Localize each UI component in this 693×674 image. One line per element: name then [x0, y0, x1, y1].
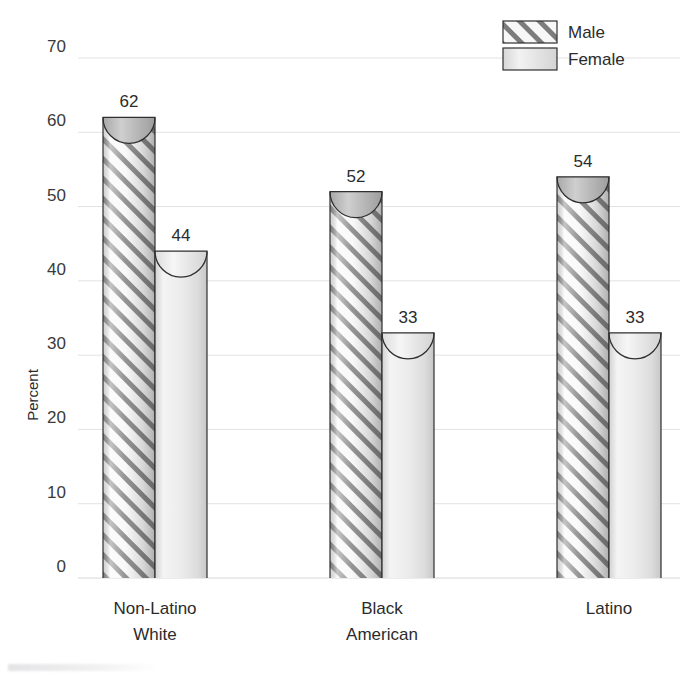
bar-value-label: 54	[574, 152, 593, 171]
y-tick-label-40: 40	[47, 260, 66, 279]
x-axis-category-label: Latino	[586, 599, 632, 618]
x-axis-category-label: American	[346, 625, 418, 644]
y-tick-label-0: 0	[57, 557, 66, 576]
x-axis-category-label: Non-Latino	[113, 599, 196, 618]
bar-value-label: 62	[120, 92, 139, 111]
x-axis-category-label: White	[133, 625, 176, 644]
y-tick-label-70: 70	[47, 37, 66, 56]
y-tick-label-10: 10	[47, 483, 66, 502]
y-tick-label-60: 60	[47, 111, 66, 130]
category-labels: Non-LatinoWhiteBlackAmericanLatino	[113, 599, 632, 644]
x-axis-category-label: Black	[361, 599, 403, 618]
chart-canvas: 010203040506070 624452335433 Non-LatinoW…	[0, 0, 693, 674]
legend-swatch-male[interactable]	[503, 21, 557, 43]
bar-value-label: 52	[347, 167, 366, 186]
y-axis-title: Percent	[24, 368, 41, 421]
legend-swatch-female[interactable]	[503, 48, 557, 70]
bar-female-0	[155, 251, 207, 578]
bar-female-2	[609, 333, 661, 578]
y-axis-ticks: 010203040506070	[47, 37, 66, 576]
bars-group	[103, 117, 661, 578]
y-tick-label-50: 50	[47, 186, 66, 205]
bar-value-label: 33	[399, 308, 418, 327]
chart-legend[interactable]: MaleFemale	[503, 21, 625, 70]
bar-value-label: 44	[172, 226, 191, 245]
y-tick-label-30: 30	[47, 334, 66, 353]
legend-label-male[interactable]: Male	[568, 23, 605, 42]
bar-male-2	[557, 177, 609, 578]
y-tick-label-20: 20	[47, 408, 66, 427]
page-footer-smudge	[8, 664, 158, 671]
bar-female-1	[382, 333, 434, 578]
bar-chart: 010203040506070 624452335433 Non-LatinoW…	[0, 0, 693, 674]
bar-male-0	[103, 117, 155, 578]
bar-male-1	[330, 192, 382, 578]
bar-value-label: 33	[626, 308, 645, 327]
legend-label-female[interactable]: Female	[568, 50, 625, 69]
